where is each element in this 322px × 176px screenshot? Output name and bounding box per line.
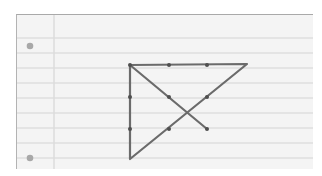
solution-lines: [130, 64, 247, 159]
punch-hole-icon: [27, 155, 34, 162]
ruled-lines: [17, 38, 313, 158]
drawing-canvas: [1, 1, 322, 176]
notebook-paper: [16, 14, 313, 169]
punch-hole-icon: [27, 43, 34, 50]
